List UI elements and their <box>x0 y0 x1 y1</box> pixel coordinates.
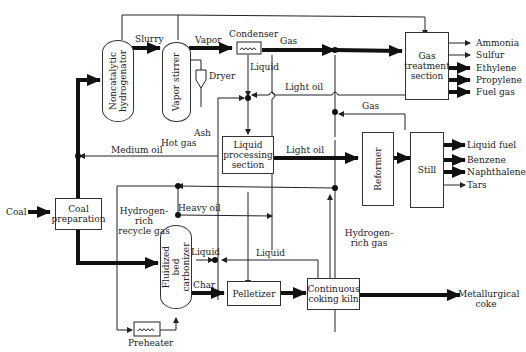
condenser-label: Condenser <box>229 29 278 39</box>
gas-mid-label: Gas <box>362 101 379 111</box>
product-fuel-gas: Fuel gas <box>476 87 515 97</box>
hot-gas-label: Hot gas <box>161 138 197 148</box>
liquid-kiln-label: Liquid <box>256 248 285 258</box>
product-naphthalene: Naphthalene <box>467 167 526 177</box>
product-tars: Tars <box>467 180 487 190</box>
vapor-label: Vapor <box>195 35 222 45</box>
product-metallurgical-coke: Metallurgical coke <box>458 289 514 309</box>
product-liquid-fuel: Liquid fuel <box>467 140 516 150</box>
noncatalytic-hydrogenator: Noncatalytic hydrogenator <box>102 40 134 122</box>
ash-label: Ash <box>194 128 211 138</box>
reformer: Reformer <box>362 132 394 206</box>
light-oil-top-label: Light oil <box>285 82 323 92</box>
light-oil-mid-label: Light oil <box>286 145 324 155</box>
fluidized-bed-carbonizer: Fluidized bed carbonizer <box>160 225 192 309</box>
vapor-stirrer-label: Vapor stirrer <box>172 53 182 112</box>
product-ethylene: Ethylene <box>476 63 516 73</box>
product-propylene: Propylene <box>476 75 522 85</box>
gas-treatment-section: Gas treatment section <box>405 32 449 100</box>
liquid-carbonizer-label: Liquid <box>191 247 220 257</box>
still: Still <box>410 132 444 208</box>
vapor-stirrer: Vapor stirrer <box>162 42 191 122</box>
liquid-processing-section: Liquid processing section <box>222 136 274 174</box>
product-benzene: Benzene <box>467 155 506 165</box>
hydrogen-recycle-label: Hydrogen-rich recycle gas <box>118 206 170 236</box>
pelletizer: Pelletizer <box>227 281 281 306</box>
slurry-label: Slurry <box>135 34 164 44</box>
product-ammonia: Ammonia <box>476 38 519 48</box>
coal-label: Coal <box>6 207 27 217</box>
medium-oil-label: Medium oil <box>111 145 163 155</box>
preheater-label: Preheater <box>128 338 173 348</box>
gas-top-label: Gas <box>280 36 297 46</box>
product-sulfur: Sulfur <box>476 50 504 60</box>
coal-preparation: Coal preparation <box>55 198 102 230</box>
hydrogen-rich-gas-label: Hydrogen-rich gas <box>336 228 402 248</box>
dryer-label: Dryer <box>209 71 235 81</box>
reformer-label: Reformer <box>373 147 383 190</box>
liquid-condenser-label: Liquid <box>250 62 279 72</box>
noncatalytic-hydrogenator-label: Noncatalytic hydrogenator <box>108 50 128 112</box>
char-label: Char <box>193 280 215 290</box>
heavy-oil-label: Heavy oil <box>178 203 221 213</box>
fluidized-bed-carbonizer-label: Fluidized bed carbonizer <box>161 243 191 292</box>
continuous-coking-kiln: Continuous coking kiln <box>307 278 360 310</box>
